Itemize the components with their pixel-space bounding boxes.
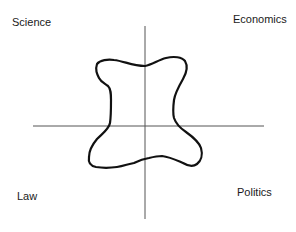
quadrant-label-politics: Politics [237,187,272,198]
quadrant-label-economics: Economics [233,14,287,25]
quadrant-label-law: Law [17,191,37,202]
quadrant-label-science: Science [12,17,51,28]
